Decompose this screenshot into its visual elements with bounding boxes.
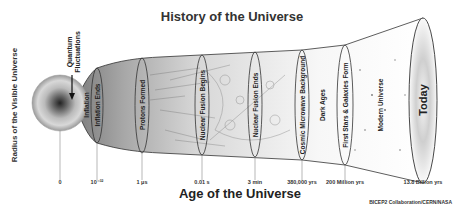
x-axis-label: Age of the Universe [179, 186, 301, 201]
y-axis-label: Radius of the Visible Universe [10, 47, 19, 162]
tick-label-inflation: 10⁻³² [91, 179, 104, 185]
annotation-quantum: Quantum [66, 37, 74, 68]
epoch-label-inflation-ends: Inflation Ends [94, 83, 101, 126]
epoch-label-fusion-begins: Nuclear Fusion Begins [199, 69, 207, 140]
tick-label-1us: 1 μs [136, 179, 147, 185]
tick-label-0-01s: 0.01 s [194, 179, 209, 185]
epoch-label-today: Today [417, 83, 429, 115]
epoch-label-protons-formed: Protons Formed [139, 80, 146, 130]
tick-label-200myrs: 200 Million yrs [326, 179, 364, 185]
epoch-label-cmb: Cosmic Microwave Background [299, 56, 307, 154]
annotation-fluctuations: Fluctuations [74, 31, 81, 73]
tick-label-380000yrs: 380,000 yrs [287, 179, 317, 185]
universe-history-diagram: History of the Universe Inflation [0, 0, 461, 214]
epoch-label-first-stars: First Stars & Galaxies Form [342, 62, 349, 147]
tick-label-0: 0 [58, 179, 61, 185]
era-label-dark-ages: Dark Ages [319, 89, 327, 121]
tick-label-3min: 3 min [248, 179, 263, 185]
tick-label-13-8byrs: 13.8 Billion yrs [404, 179, 443, 185]
big-bang-sphere [32, 75, 88, 131]
universe-funnel [72, 18, 423, 183]
era-label-modern-universe: Modern Universe [377, 78, 384, 131]
diagram-title: History of the Universe [161, 9, 303, 24]
epoch-label-fusion-ends: Nuclear Fusion Ends [252, 72, 259, 137]
neck-label: Inflation [83, 92, 90, 117]
image-credit: BICEP2 Collaboration/CERN/NASA [369, 199, 452, 205]
